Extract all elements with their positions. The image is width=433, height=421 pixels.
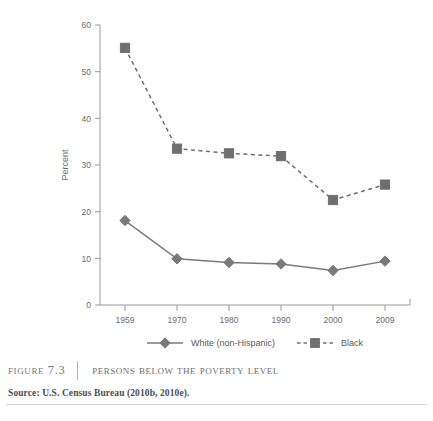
data-point-diamond xyxy=(224,257,234,267)
figure-title: Persons below the Poverty Level xyxy=(92,363,278,378)
series-line xyxy=(125,48,385,200)
series-white-non-hispanic xyxy=(120,215,390,275)
data-point-diamond xyxy=(328,265,338,275)
data-point-diamond xyxy=(120,215,130,225)
y-tick-label: 30 xyxy=(82,160,92,170)
x-tick-label: 1959 xyxy=(116,315,135,325)
chart-plot-area: 0102030405060Percent19591970198019902000… xyxy=(0,0,433,325)
data-point-square xyxy=(172,144,181,153)
x-tick-label: 1990 xyxy=(272,315,291,325)
line-chart: 0102030405060Percent19591970198019902000… xyxy=(0,0,433,325)
x-tick-label: 2000 xyxy=(324,315,343,325)
legend-graphics: White (non-Hispanic)Black xyxy=(0,332,433,354)
y-tick-label: 60 xyxy=(82,20,92,30)
data-point-square xyxy=(328,195,337,204)
x-tick-label: 1970 xyxy=(168,315,187,325)
data-point-square xyxy=(120,43,129,52)
legend-entry-black: Black xyxy=(297,338,364,348)
data-point-diamond xyxy=(172,254,182,264)
x-tick-label: 1980 xyxy=(220,315,239,325)
legend-entry-white-non-hispanic: White (non-Hispanic) xyxy=(147,338,275,349)
y-tick-label: 20 xyxy=(82,207,92,217)
y-axis-title: Percent xyxy=(60,149,70,181)
data-point-diamond xyxy=(276,259,286,269)
legend-label: White (non-Hispanic) xyxy=(191,338,275,348)
caption-divider xyxy=(77,361,78,380)
caption-row: Figure 7.3 Persons below the Poverty Lev… xyxy=(8,359,428,381)
page-bottom-rule xyxy=(6,404,427,405)
figure-source-line: Source: U.S. Census Bureau (2010b, 2010e… xyxy=(8,388,428,398)
y-tick-label: 40 xyxy=(82,114,92,124)
data-point-square xyxy=(276,152,285,161)
series-line xyxy=(125,221,385,271)
figure-caption-block: Figure 7.3 Persons below the Poverty Lev… xyxy=(8,359,428,398)
figure-number: Figure 7.3 xyxy=(8,363,65,378)
data-point-square xyxy=(224,149,233,158)
y-tick-label: 0 xyxy=(86,300,91,310)
legend-label: Black xyxy=(341,338,364,348)
legend-marker-square xyxy=(311,339,320,348)
figure-container: 0102030405060Percent19591970198019902000… xyxy=(0,0,433,421)
data-point-square xyxy=(380,180,389,189)
y-tick-label: 10 xyxy=(82,254,92,264)
series-black xyxy=(120,43,389,204)
data-point-diamond xyxy=(380,256,390,266)
chart-legend: White (non-Hispanic)Black xyxy=(0,332,433,354)
legend-marker-diamond xyxy=(160,338,170,348)
x-tick-label: 2009 xyxy=(376,315,395,325)
y-tick-label: 50 xyxy=(82,67,92,77)
